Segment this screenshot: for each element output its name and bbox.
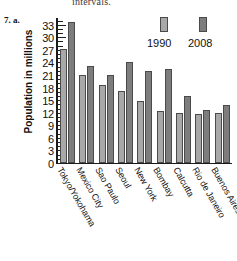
bar-2008 xyxy=(184,96,191,163)
y-tick-label: 9 xyxy=(48,121,54,132)
legend-swatch-2008 xyxy=(199,17,207,32)
y-tick-label: 33 xyxy=(42,20,54,31)
bar-group xyxy=(97,18,116,163)
bar-1990 xyxy=(79,75,86,163)
bar-1990 xyxy=(60,49,67,162)
y-tick-label: 21 xyxy=(42,70,54,81)
legend-swatch-1990 xyxy=(160,17,168,32)
chart-page: intervals. 7. a. Population in millions … xyxy=(0,0,237,261)
x-axis-tick-labels: Tokyo/YokohamaMexico CitySao PauloSeoulN… xyxy=(56,166,236,261)
y-tick-label: 12 xyxy=(42,108,54,119)
bar-1990 xyxy=(137,101,144,163)
bar-1990 xyxy=(215,113,222,162)
bar-1990 xyxy=(176,113,183,163)
bar-group xyxy=(116,18,135,163)
y-tick-label: 6 xyxy=(48,133,54,144)
bar-2008 xyxy=(145,71,152,162)
bar-2008 xyxy=(68,22,75,162)
x-tick-label: Seoul xyxy=(113,166,132,190)
y-tick-label: 15 xyxy=(42,96,54,107)
bar-2008 xyxy=(87,66,94,162)
y-tick-label: 3 xyxy=(48,146,54,157)
bar-2008 xyxy=(203,110,210,162)
chart-legend: 1990 2008 xyxy=(147,17,233,57)
bar-1990 xyxy=(195,114,202,163)
bar-group xyxy=(58,18,77,163)
bar-2008 xyxy=(126,62,133,163)
cut-off-heading: intervals. xyxy=(72,0,111,7)
bar-2008 xyxy=(107,75,114,163)
problem-number: 7. a. xyxy=(4,15,20,25)
bar-group xyxy=(77,18,96,163)
y-tick-label: 18 xyxy=(42,83,54,94)
bar-1990 xyxy=(99,85,106,163)
bar-1990 xyxy=(118,91,125,162)
y-tick-label: 27 xyxy=(42,45,54,56)
y-tick-label: 30 xyxy=(42,33,54,44)
legend-label-2008: 2008 xyxy=(188,37,212,49)
y-axis-title: Population in millions xyxy=(23,12,34,152)
bar-2008 xyxy=(165,69,172,162)
bar-1990 xyxy=(157,111,164,163)
legend-label-1990: 1990 xyxy=(147,37,171,49)
y-tick-label: 24 xyxy=(42,58,54,69)
bar-2008 xyxy=(223,105,230,163)
y-tick-label: 0 xyxy=(48,159,54,170)
